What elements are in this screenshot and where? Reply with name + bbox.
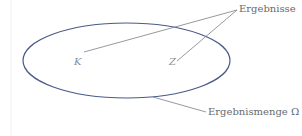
sample-space-label: Ergebnismenge Ω (208, 106, 299, 117)
element-z-label: Z (168, 56, 177, 67)
diagram-canvas: K Z Ergebnisse Ergebnismenge Ω (0, 0, 302, 136)
diagram-svg: K Z Ergebnisse Ergebnismenge Ω (0, 0, 302, 136)
outcomes-label: Ergebnisse (239, 3, 296, 14)
pointer-line-k (84, 10, 237, 52)
sample-space-ellipse (23, 23, 230, 98)
element-k-label: K (73, 56, 82, 67)
pointer-line-set (153, 97, 206, 112)
